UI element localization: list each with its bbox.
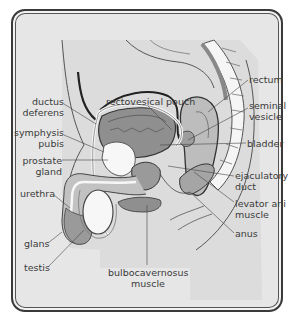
label-line: muscle: [235, 209, 286, 220]
label-anus: anus: [235, 228, 258, 239]
label-glans: glans: [24, 238, 49, 249]
label-line: deferens: [18, 107, 64, 118]
label-bladder: bladder: [247, 138, 283, 149]
label-prostate-gland: prostate gland: [14, 155, 62, 177]
label-urethra: urethra: [20, 188, 55, 199]
label-line: seminal: [249, 100, 286, 111]
label-line: ejaculatory: [235, 170, 288, 181]
label-bulbocavernosus-muscle: bulbocavernosus muscle: [108, 267, 188, 289]
label-testis: testis: [24, 262, 50, 273]
label-line: bulbocavernosus: [108, 267, 188, 278]
label-line: pubis: [14, 138, 64, 149]
label-line: prostate: [14, 155, 62, 166]
label-ejaculatory-duct: ejaculatory duct: [235, 170, 288, 192]
label-symphysis-pubis: symphysis pubis: [14, 127, 64, 149]
label-rectum: rectum: [249, 74, 283, 85]
label-line: ductus: [18, 96, 64, 107]
label-line: symphysis: [14, 127, 64, 138]
label-line: levator ani: [235, 198, 286, 209]
label-line: gland: [14, 166, 62, 177]
label-levator-ani-muscle: levator ani muscle: [235, 198, 286, 220]
label-line: vesicle: [249, 111, 286, 122]
label-ductus-deferens: ductus deferens: [18, 96, 64, 118]
label-seminal-vesicle: seminal vesicle: [249, 100, 286, 122]
label-line: duct: [235, 181, 288, 192]
label-line: muscle: [108, 278, 188, 289]
label-rectovesical-pouch: rectovesical pouch: [106, 96, 195, 107]
